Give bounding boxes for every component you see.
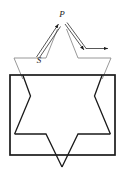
geometry-diagram-svg: P S	[0, 0, 125, 172]
page-background	[0, 0, 125, 172]
label-source-s: S	[37, 55, 42, 65]
label-apex-p: P	[58, 9, 65, 19]
figure-container: P S	[0, 0, 125, 172]
